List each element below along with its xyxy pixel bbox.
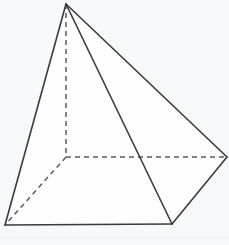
edge-base-front	[5, 224, 172, 225]
pyramid-figure-canvas	[0, 0, 229, 245]
pyramid-drawing	[0, 0, 229, 245]
